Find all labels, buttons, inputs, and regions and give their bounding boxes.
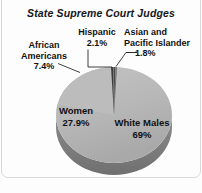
label-white-males-name: White Males <box>115 117 170 128</box>
label-women: Women 27.9% <box>44 105 108 128</box>
label-white-males: White Males 69% <box>104 117 180 140</box>
label-hispanic-name: Hispanic <box>78 27 116 37</box>
label-african-americans-line1: African <box>28 40 59 50</box>
label-hispanic-value: 2.1% <box>87 38 108 48</box>
label-white-males-value: 69% <box>132 129 151 140</box>
label-asian-pacific-islander-line1: Asian and <box>124 27 167 37</box>
label-african-americans-line2: Americans <box>21 51 67 61</box>
label-women-value: 27.9% <box>63 117 90 128</box>
chart-figure: State Supreme Court Judges <box>0 0 202 193</box>
label-asian-pacific-islander: Asian and Pacific Islander 1.8% <box>124 27 200 59</box>
label-hispanic: Hispanic 2.1% <box>72 27 122 48</box>
label-women-name: Women <box>59 105 93 116</box>
label-asian-pacific-islander-line2: Pacific Islander <box>124 38 190 48</box>
label-african-americans: African Americans 7.4% <box>8 40 80 72</box>
label-african-americans-value: 7.4% <box>34 61 55 71</box>
label-asian-pacific-islander-value: 1.8% <box>124 48 200 59</box>
